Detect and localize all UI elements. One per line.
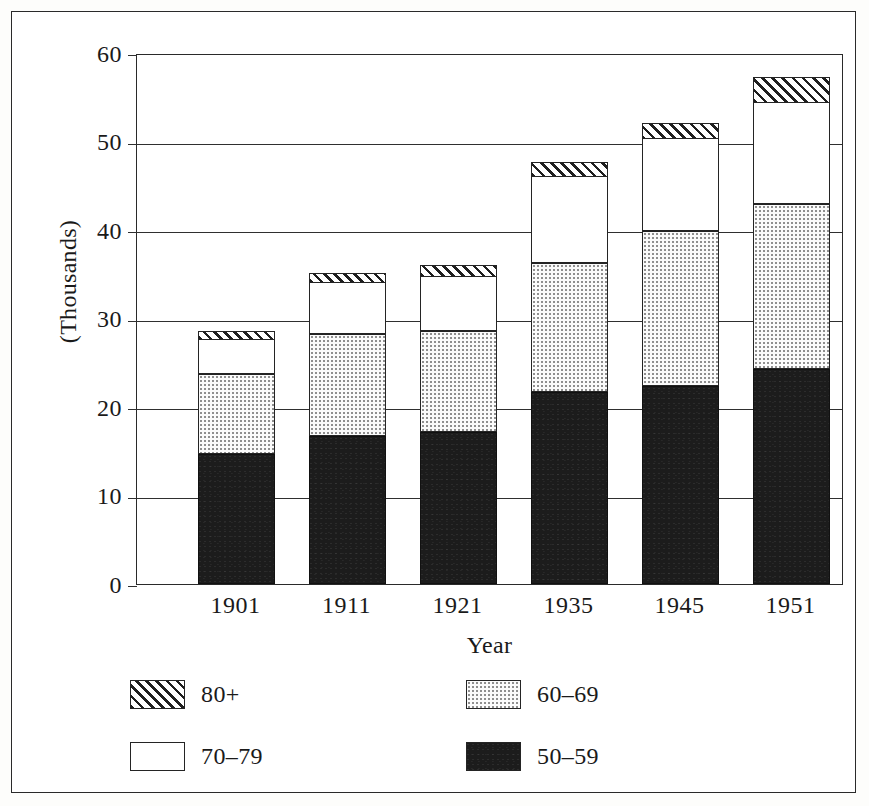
x-tick-label-1935: 1935 (514, 592, 624, 619)
bar-segment-80plus-1951[interactable] (753, 77, 830, 104)
y-tick-label-20: 20 (62, 396, 122, 420)
legend-item-60-69[interactable]: 60–69 (466, 680, 599, 709)
legend-item-70-79[interactable]: 70–79 (130, 742, 263, 771)
bar-segment-60-69-1901[interactable] (198, 374, 275, 454)
gridline-50 (137, 144, 842, 145)
bar-segment-50-59-1921[interactable] (420, 432, 497, 584)
y-tick-30 (128, 321, 137, 322)
legend-label-70-79: 70–79 (201, 743, 263, 770)
bar-segment-60-69-1921[interactable] (420, 331, 497, 432)
legend-item-80plus[interactable]: 80+ (130, 680, 240, 709)
legend-label-80plus: 80+ (201, 681, 240, 708)
x-tick-label-1921: 1921 (403, 592, 513, 619)
diagonal-hatch-swatch-icon (130, 680, 185, 709)
dotted-swatch-icon (466, 680, 521, 709)
figure-frame: (Thousands) 60 50 40 30 20 10 0 (11, 11, 856, 793)
y-tick-label-10: 10 (62, 484, 122, 508)
bar-segment-70-79-1911[interactable] (309, 282, 386, 335)
bar-segment-60-69-1951[interactable] (753, 204, 830, 369)
gridline-40 (137, 232, 842, 233)
solid-black-swatch-icon (466, 742, 521, 771)
bar-segment-60-69-1935[interactable] (531, 263, 608, 392)
x-axis-title: Year (136, 632, 843, 659)
bar-segment-70-79-1951[interactable] (753, 102, 830, 204)
bar-segment-50-59-1945[interactable] (642, 386, 719, 584)
y-tick-label-0: 0 (62, 573, 122, 597)
x-tick-label-1911: 1911 (292, 592, 402, 619)
bar-segment-60-69-1945[interactable] (642, 231, 719, 386)
legend-label-60-69: 60–69 (537, 681, 599, 708)
y-tick-0 (128, 586, 137, 587)
bar-segment-60-69-1911[interactable] (309, 334, 386, 436)
plot-area (136, 54, 843, 585)
chart-legend: 80+ 60–69 70–79 50–59 (122, 680, 782, 785)
chart-page: (Thousands) 60 50 40 30 20 10 0 (0, 0, 869, 806)
x-tick-label-1901: 1901 (181, 592, 291, 619)
bar-segment-70-79-1945[interactable] (642, 138, 719, 231)
x-tick-label-1945: 1945 (625, 592, 735, 619)
bar-segment-80plus-1945[interactable] (642, 123, 719, 140)
bar-segment-50-59-1951[interactable] (753, 369, 830, 584)
bar-segment-50-59-1911[interactable] (309, 436, 386, 584)
legend-item-50-59[interactable]: 50–59 (466, 742, 599, 771)
y-tick-label-30: 30 (62, 307, 122, 331)
y-tick-label-50: 50 (62, 130, 122, 154)
y-tick-60 (128, 55, 137, 56)
y-axis-tick-labels: 60 50 40 30 20 10 0 (58, 54, 122, 585)
y-tick-20 (128, 409, 137, 410)
y-tick-10 (128, 498, 137, 499)
y-tick-40 (128, 232, 137, 233)
legend-label-50-59: 50–59 (537, 743, 599, 770)
bar-segment-50-59-1901[interactable] (198, 454, 275, 584)
bar-segment-70-79-1935[interactable] (531, 176, 608, 263)
y-tick-label-60: 60 (62, 42, 122, 66)
bar-segment-50-59-1935[interactable] (531, 392, 608, 584)
y-tick-label-40: 40 (62, 219, 122, 243)
x-axis-tick-labels: 1901 1911 1921 1935 1945 1951 (136, 592, 843, 626)
x-tick-label-1951: 1951 (736, 592, 846, 619)
bar-segment-70-79-1901[interactable] (198, 339, 275, 374)
bar-segment-70-79-1921[interactable] (420, 276, 497, 331)
y-tick-50 (128, 144, 137, 145)
open-white-swatch-icon (130, 742, 185, 771)
